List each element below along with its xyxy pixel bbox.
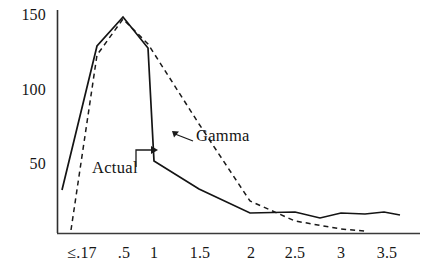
x-tick-label-0: ≤.17 (67, 244, 97, 262)
x-tick-label-3: 1.5 (190, 244, 211, 262)
gamma-series-line (71, 19, 365, 231)
y-tick-label-50: 50 (0, 155, 46, 173)
gamma-series-label: Gamma (196, 126, 250, 146)
y-tick-label-100: 100 (0, 81, 46, 99)
x-tick-label-7: 3.5 (377, 244, 398, 262)
x-tick-label-1: .5 (118, 244, 130, 262)
y-tick-label-150: 150 (0, 6, 46, 24)
x-tick-label-6: 3 (337, 244, 345, 262)
actual-series-line (62, 17, 400, 218)
x-tick-label-4: 2 (247, 244, 255, 262)
gamma-distribution-figure: 150 100 50 ≤.17 .5 1 1.5 2 2.5 3 3.5 Act… (0, 0, 424, 277)
gamma-annotation-arrow (172, 131, 193, 141)
actual-annotation-arrow (136, 146, 158, 167)
x-tick-label-5: 2.5 (285, 244, 306, 262)
x-tick-label-2: 1 (150, 244, 158, 262)
actual-series-label: Actual (92, 158, 138, 178)
